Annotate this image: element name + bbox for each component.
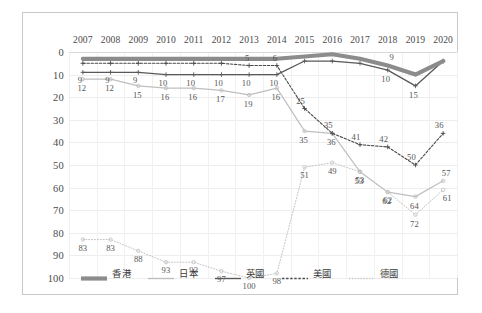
data-point-label: 41 (352, 132, 361, 142)
series-marker (108, 61, 113, 66)
legend-item[interactable]: 英國 (215, 266, 265, 280)
data-point-label: 53 (356, 175, 365, 185)
data-point-label: 16 (271, 92, 280, 102)
data-point-label: 5 (245, 53, 249, 63)
series-marker (302, 59, 307, 64)
x-axis-tick-label: 2019 (406, 34, 426, 45)
series-marker (164, 72, 169, 77)
data-point-label: 6 (273, 53, 277, 63)
plot-area: 0102030405060708090100 20072008200920102… (69, 52, 457, 278)
data-point-label: 61 (443, 193, 452, 203)
y-axis-tick-label: 70 (53, 205, 64, 216)
series-marker (191, 61, 196, 66)
legend-label: 日本 (179, 266, 198, 280)
legend-label: 美國 (313, 266, 332, 280)
series-lines (69, 52, 457, 278)
data-point-label: 57 (442, 168, 451, 178)
data-point-label: 72 (410, 219, 419, 229)
series-marker (358, 142, 363, 147)
data-point-label: 10 (381, 74, 390, 84)
legend-item[interactable]: 美國 (282, 266, 332, 280)
legend-label: 德國 (380, 266, 399, 280)
chart-screenshot: 0102030405060708090100 20072008200920102… (0, 0, 482, 313)
x-axis-tick-label: 2010 (156, 34, 176, 45)
y-axis-tick-label: 60 (53, 182, 64, 193)
x-axis-tick-label: 2014 (267, 34, 287, 45)
y-axis-tick-label: 10 (53, 69, 64, 80)
data-point-label: 50 (407, 152, 416, 162)
series-marker (330, 59, 335, 64)
legend-label: 香港 (112, 266, 131, 280)
x-axis-tick-label: 2008 (101, 34, 121, 45)
legend-swatch (349, 269, 375, 278)
x-axis-tick-label: 2018 (378, 34, 398, 45)
series-marker (136, 61, 141, 66)
series-marker (247, 63, 252, 68)
series-marker (275, 72, 280, 77)
data-point-label: 36 (327, 137, 336, 147)
series-marker (81, 61, 86, 66)
x-axis-tick-label: 2016 (322, 34, 342, 45)
series-marker (108, 70, 113, 75)
x-axis-tick-label: 2009 (128, 34, 148, 45)
legend-swatch (215, 269, 241, 278)
legend-label: 英國 (246, 266, 265, 280)
data-point-label: 25 (296, 96, 305, 106)
data-point-label: 10 (159, 78, 168, 88)
y-axis-tick-label: 50 (53, 160, 64, 171)
data-point-label: 35 (324, 120, 333, 130)
data-point-label: 16 (161, 92, 170, 102)
series-marker (358, 61, 363, 66)
series-marker (441, 188, 444, 191)
data-point-label: 62 (383, 195, 392, 205)
series-marker (136, 70, 141, 75)
data-point-label: 36 (435, 120, 444, 130)
data-point-label: 9 (390, 52, 394, 62)
y-axis-tick-label: 20 (53, 92, 64, 103)
data-point-label: 42 (379, 134, 388, 144)
chart-legend: 香港日本英國美國德國 (23, 266, 457, 280)
series-marker (219, 61, 224, 66)
data-point-label: 10 (214, 78, 223, 88)
legend-swatch (148, 269, 174, 278)
x-axis-tick-label: 2015 (295, 34, 315, 45)
y-axis-tick-label: 80 (53, 227, 64, 238)
x-axis-tick-label: 2013 (239, 34, 259, 45)
data-point-label: 100 (243, 281, 256, 291)
data-point-label: 88 (134, 254, 143, 264)
data-point-label: 49 (328, 166, 337, 176)
x-axis-tick-label: 2011 (184, 34, 203, 45)
y-axis-tick-label: 40 (53, 137, 64, 148)
legend-item[interactable]: 香港 (81, 266, 131, 280)
x-axis-tick-label: 2007 (73, 34, 93, 45)
legend-item[interactable]: 日本 (148, 266, 198, 280)
chart-frame: 0102030405060708090100 20072008200920102… (22, 12, 458, 295)
series-marker (164, 61, 169, 66)
series-marker (247, 72, 252, 77)
series-marker (441, 131, 446, 136)
data-point-label: 10 (186, 78, 195, 88)
data-point-label: 10 (242, 78, 251, 88)
series-marker (81, 70, 86, 75)
data-point-label: 83 (78, 243, 87, 253)
data-point-label: 35 (299, 135, 308, 145)
data-point-label: 10 (269, 78, 278, 88)
y-axis-tick-label: 90 (53, 250, 64, 261)
legend-swatch (282, 269, 308, 278)
legend-item[interactable]: 德國 (349, 266, 399, 280)
data-point-label: 83 (106, 243, 115, 253)
y-axis-tick-label: 0 (59, 47, 64, 58)
series-marker (275, 63, 280, 68)
data-point-label: 17 (216, 94, 225, 104)
x-axis-tick-label: 2012 (212, 34, 232, 45)
legend-swatch (81, 269, 107, 278)
data-point-label: 15 (409, 90, 418, 100)
data-point-label: 15 (133, 90, 142, 100)
series-marker (191, 72, 196, 77)
x-axis-tick-label: 2020 (433, 34, 453, 45)
data-point-label: 16 (188, 92, 197, 102)
data-point-label: 9 (133, 75, 137, 85)
gridline-vertical (457, 52, 458, 278)
data-point-label: 19 (244, 99, 253, 109)
data-point-label: 9 (105, 75, 109, 85)
